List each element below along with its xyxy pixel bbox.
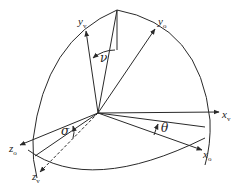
axis-z-v xyxy=(40,113,98,172)
label-y-o: yo xyxy=(157,15,167,30)
axis-y-o xyxy=(98,29,155,113)
label-x-v: xv xyxy=(221,108,231,123)
label-z-o: zo xyxy=(8,142,17,157)
label-z-v: zv xyxy=(31,170,40,185)
angle-label-sigma: σ xyxy=(61,124,70,138)
axis-x-mid xyxy=(98,113,205,127)
angle-label-theta: θ xyxy=(161,121,169,135)
axis-x-o xyxy=(98,113,202,150)
label-x-o: xo xyxy=(202,148,212,163)
axis-y-v xyxy=(86,31,98,113)
angle-label-nu: ν xyxy=(100,51,107,65)
axis-x-v xyxy=(98,112,219,113)
label-y-v: yv xyxy=(77,15,87,30)
sphere-arc-left xyxy=(33,10,117,178)
angle-arc-sigma xyxy=(73,126,74,138)
coordinate-rotation-diagram: yv yo xv xo zo zv ν θ σ xyxy=(0,0,234,190)
